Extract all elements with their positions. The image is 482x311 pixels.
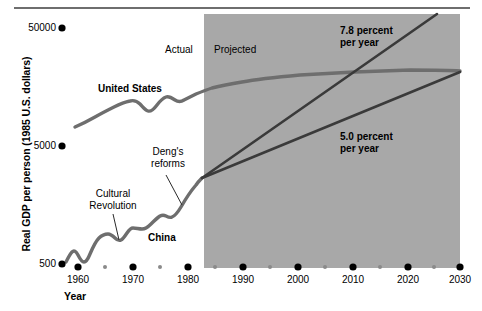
annotation-rate-5-0-percent-line1: 5.0 percent: [340, 131, 393, 143]
series-label-china: China: [148, 232, 176, 244]
y-tick-label-5000: 5000: [14, 140, 56, 151]
y-tick-label-50000: 50000: [14, 22, 56, 33]
annotation-projected: Projected: [214, 44, 256, 56]
annotation-dengs-reforms-line2: reforms: [140, 158, 196, 170]
x-tick-dot-1975: [158, 265, 162, 269]
x-tick-dot-1990: [239, 263, 246, 270]
gdp-growth-chart: Real GDP per person (1985 U.S. dollars) …: [0, 0, 482, 311]
x-tick-label-2000: 2000: [278, 274, 318, 285]
annotation-dengs-reforms-line1: Deng's: [140, 146, 196, 158]
x-tick-dot-2005: [323, 265, 327, 269]
annotation-rate-7-8-percent-line2: per year: [340, 37, 393, 49]
x-tick-dot-1980: [184, 263, 191, 270]
x-tick-dot-2000: [294, 263, 301, 270]
annotation-actual: Actual: [165, 44, 193, 56]
x-tick-label-1970: 1970: [113, 274, 153, 285]
x-tick-label-1960: 1960: [58, 274, 98, 285]
x-tick-label-1990: 1990: [223, 274, 263, 285]
y-tick-dot-5000: [58, 142, 65, 149]
x-tick-dot-2015: [378, 265, 382, 269]
annotation-cultural-revolution-line2: Revolution: [72, 200, 154, 212]
series-label-united-states-text: United States: [98, 83, 162, 94]
y-axis-title: Real GDP per person (1985 U.S. dollars): [20, 44, 32, 264]
x-tick-dot-1985: [213, 265, 217, 269]
x-tick-label-1980: 1980: [168, 274, 208, 285]
x-tick-dot-2025: [432, 265, 436, 269]
x-tick-dot-2030: [456, 263, 463, 270]
annotation-cultural-revolution: Cultural Revolution: [72, 188, 154, 211]
annotation-rate-7-8-percent: 7.8 percent per year: [340, 25, 393, 48]
x-tick-dot-1965: [103, 265, 107, 269]
x-axis-title: Year: [64, 290, 86, 302]
series-label-united-states: United States: [98, 83, 156, 95]
y-tick-label-500: 500: [14, 258, 56, 269]
x-tick-label-2010: 2010: [333, 274, 373, 285]
x-tick-dot-1995: [268, 265, 272, 269]
annotation-cultural-revolution-line1: Cultural: [72, 188, 154, 200]
x-tick-dot-1960: [74, 263, 81, 270]
y-tick-dot-500: [58, 260, 65, 267]
annotation-rate-7-8-percent-line1: 7.8 percent: [340, 25, 393, 37]
annotation-rate-5-0-percent-line2: per year: [340, 143, 393, 155]
annotation-dengs-reforms: Deng's reforms: [140, 146, 196, 169]
y-tick-dot-50000: [58, 24, 65, 31]
x-tick-dot-1970: [129, 263, 136, 270]
annotation-rate-5-0-percent: 5.0 percent per year: [340, 131, 393, 154]
x-tick-dot-2010: [349, 263, 356, 270]
dengs-reforms-leader-line: [166, 175, 182, 205]
x-tick-label-2020: 2020: [388, 274, 428, 285]
x-tick-dot-2020: [404, 263, 411, 270]
x-tick-label-2030: 2030: [440, 274, 480, 285]
